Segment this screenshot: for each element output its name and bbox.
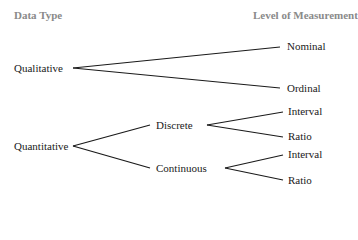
- node-qualitative: Qualitative: [14, 63, 63, 74]
- node-nominal: Nominal: [287, 41, 326, 52]
- edge-qualitative-nominal: [73, 47, 280, 68]
- node-continuous-ratio: Ratio: [288, 175, 312, 186]
- edge-discrete-ratio: [207, 125, 283, 137]
- edge-discrete-interval: [207, 112, 283, 125]
- node-continuous: Continuous: [156, 163, 207, 174]
- node-ordinal: Ordinal: [287, 83, 321, 94]
- node-continuous-interval: Interval: [288, 149, 322, 160]
- edge-continuous-interval: [225, 155, 283, 168]
- edge-continuous-ratio: [225, 168, 283, 180]
- node-discrete: Discrete: [156, 120, 193, 131]
- edge-quantitative-continuous: [73, 146, 150, 168]
- node-discrete-ratio: Ratio: [288, 131, 312, 142]
- node-quantitative: Quantitative: [14, 141, 68, 152]
- edge-qualitative-ordinal: [73, 68, 280, 88]
- edge-quantitative-discrete: [73, 125, 150, 146]
- node-discrete-interval: Interval: [288, 106, 322, 117]
